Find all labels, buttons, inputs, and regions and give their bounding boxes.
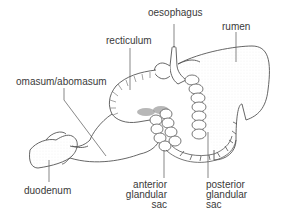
- label-duodenum: duodenum: [24, 186, 71, 196]
- rumen-shape: [178, 46, 269, 160]
- label-oesophagus: oesophagus: [148, 8, 203, 18]
- label-recticulum: recticulum: [106, 36, 152, 46]
- label-posterior-glandular-sac: posterior glandular sac: [206, 180, 266, 210]
- label-anterior-glandular-sac: anterior glandular sac: [120, 180, 167, 210]
- stomach-diagram: oesophagus rumen recticulum omasum/aboma…: [0, 0, 286, 223]
- label-anterior-line-3: sac: [120, 200, 167, 210]
- label-posterior-line-3: sac: [206, 200, 266, 210]
- label-rumen: rumen: [222, 22, 250, 32]
- duodenum-shape: [29, 132, 88, 168]
- label-omasum-abomasum: omasum/abomasum: [16, 77, 107, 87]
